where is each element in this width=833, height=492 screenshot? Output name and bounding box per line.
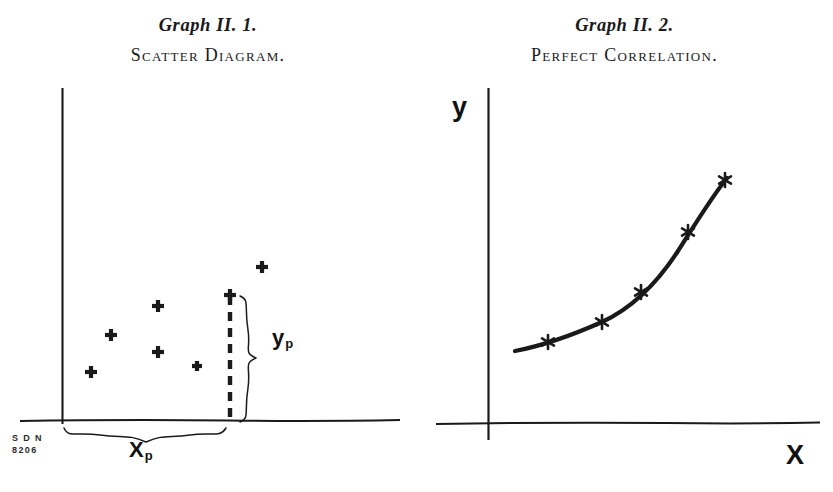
scatter-points-group — [85, 261, 268, 378]
curve-markers-group — [542, 173, 731, 349]
figure-graph-ii-2: Graph II. 2. Perfect Correlation. — [416, 0, 833, 492]
x-axis-line-left — [20, 420, 400, 421]
vertical-brace-yp — [240, 296, 256, 422]
scatter-point — [152, 346, 164, 358]
scatter-point — [152, 300, 164, 312]
y-axis-label: y — [452, 92, 467, 123]
correlation-plot-svg — [416, 0, 833, 492]
figure-page: Graph II. 1. Scatter Diagram. — [0, 0, 833, 492]
correlation-curve — [515, 178, 727, 351]
scatter-plot-svg — [0, 0, 416, 492]
label-x-p: Xp — [129, 437, 152, 463]
scatter-point — [105, 329, 117, 341]
scatter-point — [192, 361, 202, 371]
label-x-p-subscript: p — [145, 448, 153, 463]
x-axis-line-right — [436, 423, 820, 425]
scatter-point — [85, 366, 97, 378]
figure-graph-ii-1: Graph II. 1. Scatter Diagram. — [0, 0, 416, 492]
label-x-p-letter: X — [129, 437, 144, 462]
label-y-p-subscript: p — [285, 336, 293, 351]
scatter-point — [256, 261, 268, 273]
label-y-p: yp — [272, 325, 292, 351]
x-axis-label: X — [786, 440, 804, 471]
archive-stamp-left: S D N 8206 — [12, 432, 43, 456]
label-y-p-letter: y — [272, 325, 284, 350]
